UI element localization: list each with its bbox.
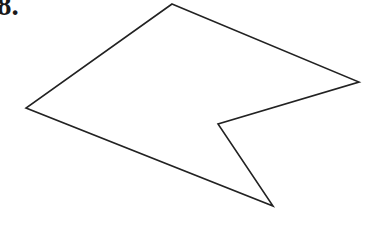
concave-pentagon-outline — [26, 4, 359, 206]
worksheet-page: 8. — [0, 0, 369, 239]
polygon-figure — [0, 0, 369, 239]
